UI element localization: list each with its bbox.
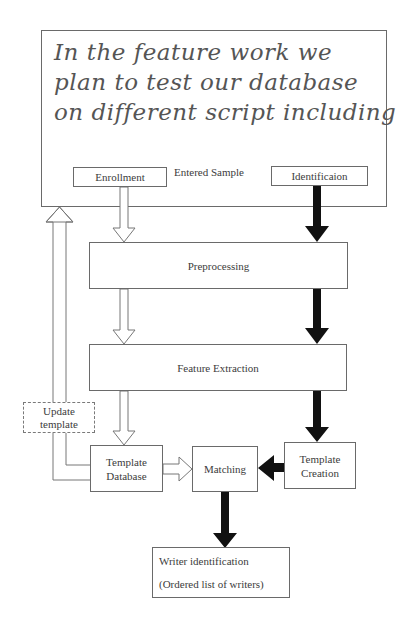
writer-identification-box: Writer identification (Ordered list of w… <box>152 547 290 598</box>
template-database-label-line1: Template <box>106 455 147 469</box>
hollow-arrow-enrollment-preprocessing <box>113 187 135 242</box>
template-creation-label-line2: Creation <box>301 466 339 480</box>
template-database-box: Template Database <box>90 445 163 492</box>
feedback-arrow <box>46 207 90 480</box>
hollow-arrow-preprocessing-feature <box>113 289 135 344</box>
feature-extraction-box: Feature Extraction <box>89 344 347 391</box>
diagram-arrows <box>0 0 407 632</box>
identification-box: Identificaion <box>271 166 368 186</box>
template-creation-box: Template Creation <box>284 442 356 489</box>
solid-arrow-identification-preprocessing <box>305 186 329 242</box>
enrollment-label: Enrollment <box>95 170 145 184</box>
template-database-label-line2: Database <box>106 469 146 483</box>
update-template-box: Update template <box>23 402 95 433</box>
enrollment-box: Enrollment <box>73 167 167 187</box>
update-template-label-line1: Update <box>43 405 75 418</box>
matching-box: Matching <box>192 446 258 492</box>
preprocessing-label: Preprocessing <box>188 259 250 273</box>
identification-label: Identificaion <box>291 169 347 183</box>
entered-sample-label: Entered Sample <box>174 166 244 178</box>
hollow-arrow-templatedb-matching <box>163 457 192 481</box>
template-creation-label-line1: Template <box>300 452 341 466</box>
solid-arrow-templatecreation-matching <box>258 455 284 481</box>
solid-arrow-feature-templatecreation <box>305 391 329 442</box>
hollow-arrow-feature-templatedb <box>113 391 135 445</box>
preprocessing-box: Preprocessing <box>89 242 348 289</box>
matching-label: Matching <box>204 462 246 476</box>
writer-identification-title: Writer identification <box>159 554 249 568</box>
update-template-label-line2: template <box>40 418 78 431</box>
solid-arrow-preprocessing-feature <box>305 289 329 344</box>
writer-identification-subtitle: (Ordered list of writers) <box>159 577 264 591</box>
solid-arrow-matching-writer <box>213 492 237 548</box>
feature-extraction-label: Feature Extraction <box>177 361 259 375</box>
